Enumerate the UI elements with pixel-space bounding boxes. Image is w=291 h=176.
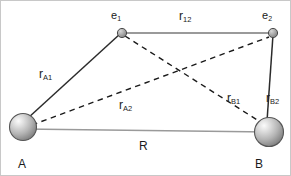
edge-label-rB2: rB2 <box>266 92 279 104</box>
edge-label-R: R <box>139 140 148 152</box>
edge-label-rA1: rA1 <box>39 68 52 80</box>
edge-label-rB1: rB1 <box>227 92 240 104</box>
edge-label-rA2: rA2 <box>119 99 132 111</box>
physics-diagram-figure: A B e1 e2 rA1 rA2 rB1 rB2 r12 R <box>0 0 291 176</box>
node-e1-sphere <box>117 28 126 37</box>
node-e2-sphere <box>268 28 277 37</box>
node-label-e1: e1 <box>111 10 121 21</box>
node-B-sphere <box>255 118 284 147</box>
edge-rB1-line <box>125 36 262 123</box>
node-A-sphere <box>10 114 37 141</box>
edge-label-r12: r12 <box>179 10 191 22</box>
node-label-B: B <box>255 158 263 170</box>
edge-rB2-line <box>267 35 273 121</box>
node-label-A: A <box>18 158 26 170</box>
node-label-e2: e2 <box>262 10 272 21</box>
edge-R-line <box>23 129 269 132</box>
